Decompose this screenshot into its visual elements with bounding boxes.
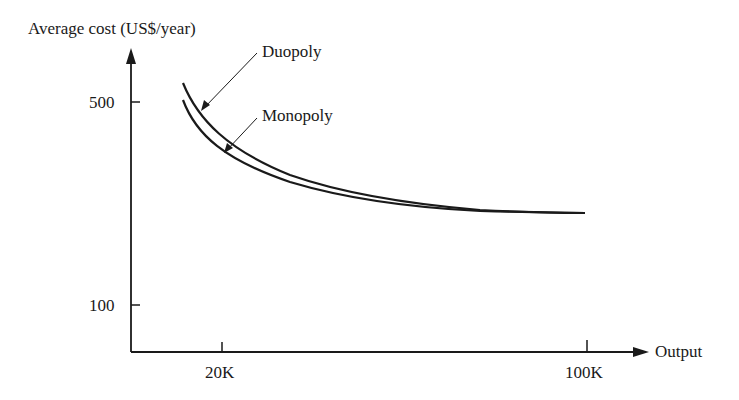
xtick-20k-label: 20K <box>205 364 234 381</box>
y-axis-arrow-icon <box>126 48 136 64</box>
duopoly-pointer <box>204 53 257 108</box>
duopoly-curve <box>183 83 585 213</box>
xtick-100k-label: 100K <box>565 364 603 381</box>
duopoly-pointer-arrow-icon <box>201 100 210 111</box>
x-axis-label: Output <box>655 343 702 360</box>
monopoly-curve <box>183 100 585 213</box>
monopoly-pointer <box>227 118 257 150</box>
duopoly-annotation: Duopoly <box>262 43 322 60</box>
x-axis-arrow-icon <box>633 347 649 357</box>
chart-canvas <box>0 0 739 400</box>
monopoly-annotation: Monopoly <box>262 107 333 124</box>
y-axis-label: Average cost (US$/year) <box>28 20 196 37</box>
ytick-500-label: 500 <box>89 94 115 111</box>
ytick-100-label: 100 <box>89 297 115 314</box>
